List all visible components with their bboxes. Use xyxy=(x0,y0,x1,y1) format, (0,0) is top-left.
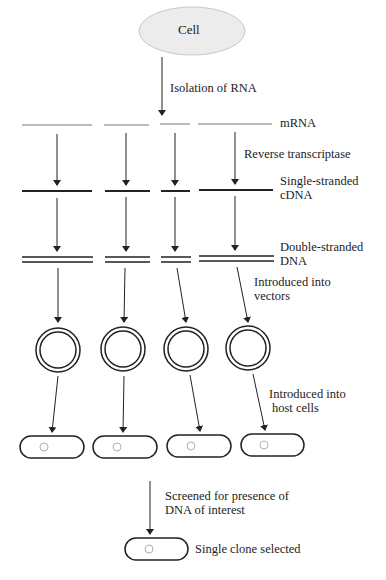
reverse-transcriptase-label: Reverse transcriptase xyxy=(244,148,351,161)
ds-dna-label-line1: Double-stranded xyxy=(280,241,363,254)
host-label-line2: host cells xyxy=(272,402,319,415)
ss-cdna-strands xyxy=(22,190,273,191)
mrna-strands xyxy=(22,124,272,125)
ss-cdna-label-line2: cDNA xyxy=(280,189,313,202)
ds-dna-label-line2: DNA xyxy=(280,255,307,268)
host-cells xyxy=(20,434,304,458)
ss-cdna-label-line1: Single-stranded xyxy=(280,175,358,188)
arrows-second-strand xyxy=(57,196,235,251)
step-isolation-label: Isolation of RNA xyxy=(170,82,257,95)
selected-clone xyxy=(125,538,188,560)
screening-label-line2: DNA of interest xyxy=(165,504,245,517)
selected-clone-label: Single clone selected xyxy=(195,543,301,556)
arrows-into-hosts xyxy=(52,374,265,432)
host-label-line1: Introduced into xyxy=(269,388,346,401)
arrows-into-vectors xyxy=(58,267,248,322)
vectors-label-line1: Introduced into xyxy=(254,276,331,289)
plasmid-vectors xyxy=(36,326,270,372)
vectors-label-line2: vectors xyxy=(254,290,290,303)
ds-dna-strands xyxy=(22,256,274,262)
cell-label: Cell xyxy=(178,22,200,38)
screening-label-line1: Screened for presence of xyxy=(165,490,289,503)
arrows-reverse-transcription xyxy=(57,132,235,185)
mrna-label: mRNA xyxy=(280,117,316,130)
